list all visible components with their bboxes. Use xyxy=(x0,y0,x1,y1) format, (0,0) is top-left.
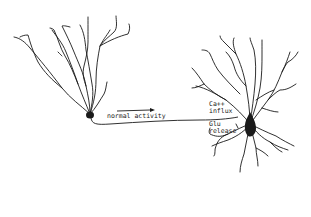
diagram-canvas xyxy=(0,0,311,217)
normal-activity-label: normal activity xyxy=(107,113,166,120)
glu-release-label-line2: release xyxy=(209,128,236,135)
left-neuron-dendrites xyxy=(14,16,130,114)
ca-influx-label-line2: influx xyxy=(209,108,232,115)
neuron-diagram: normal activity Ca++ influx Glu release xyxy=(0,0,311,217)
right-neuron-dendrites xyxy=(192,36,298,172)
left-neuron-soma xyxy=(86,112,94,119)
right-neuron-soma xyxy=(245,112,256,137)
